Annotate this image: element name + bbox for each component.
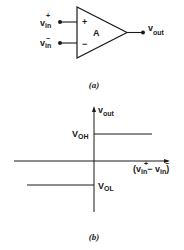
caption-b: (b) bbox=[89, 232, 100, 242]
x-axis-sup-plus: + bbox=[144, 160, 148, 167]
vol-label: VOL bbox=[98, 181, 114, 192]
x-axis-sup-minus: − bbox=[165, 160, 169, 167]
y-axis-label: vout bbox=[98, 105, 115, 117]
input-positive-label: vin bbox=[40, 18, 51, 29]
comparator-symbol: + − A vin + vin − vout bbox=[40, 7, 165, 58]
output-label: vout bbox=[148, 23, 165, 36]
transfer-characteristic: vout VOH VOL (vin− vin) + − bbox=[14, 105, 170, 212]
plus-sign: + bbox=[82, 17, 87, 27]
output-node bbox=[141, 31, 145, 35]
y-axis-arrowhead bbox=[92, 106, 96, 112]
input-negative-node bbox=[58, 41, 62, 45]
amplifier-triangle bbox=[77, 7, 127, 58]
input-positive-sup: + bbox=[46, 12, 50, 19]
minus-sign: − bbox=[82, 39, 87, 49]
caption-a: (a) bbox=[89, 80, 100, 90]
amp-gain-label: A bbox=[93, 28, 100, 38]
input-positive-node bbox=[58, 20, 62, 24]
voh-label: VOH bbox=[72, 129, 89, 140]
input-negative-sup: − bbox=[46, 35, 50, 42]
comparator-figure: + − A vin + vin − vout (a) vout VOH VOL bbox=[0, 0, 184, 250]
x-axis-label: (vin− vin) bbox=[133, 164, 169, 175]
